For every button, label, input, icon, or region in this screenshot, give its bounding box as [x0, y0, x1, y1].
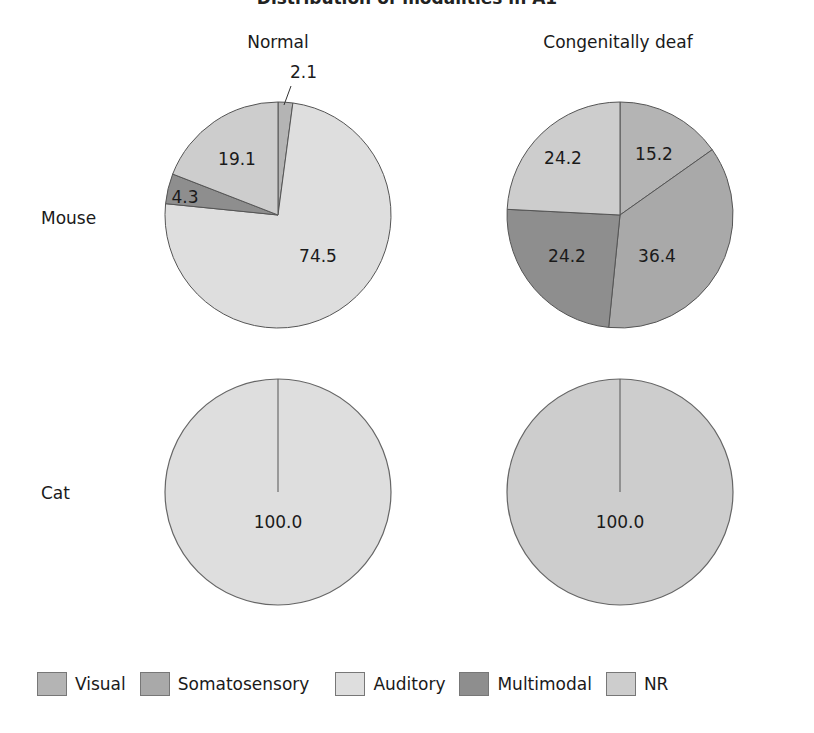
- pie-slice: [507, 209, 620, 327]
- slice-value-label: 4.3: [171, 187, 198, 207]
- legend-item-nr: NR: [606, 672, 669, 696]
- legend-item-auditory: Auditory: [335, 672, 445, 696]
- slice-value-label: 74.5: [299, 246, 337, 266]
- slice-value-label: 100.0: [596, 512, 645, 532]
- slice-value-label: 15.2: [635, 144, 673, 164]
- legend-label: Visual: [75, 674, 126, 694]
- pie-mouse-normal: 2.174.54.319.1: [165, 62, 391, 328]
- legend-swatch: [606, 672, 636, 696]
- legend-label: Multimodal: [497, 674, 591, 694]
- legend-swatch: [335, 672, 365, 696]
- slice-value-label: 2.1: [290, 62, 317, 82]
- slice-value-label: 24.2: [548, 246, 586, 266]
- legend-item-visual: Visual: [37, 672, 126, 696]
- pie-cat-deaf: 100.0: [507, 379, 733, 605]
- legend-swatch: [37, 672, 67, 696]
- pie-cat-normal: 100.0: [165, 379, 391, 605]
- legend-swatch: [140, 672, 170, 696]
- legend: Visual Somatosensory Auditory Multimodal…: [37, 672, 682, 696]
- legend-swatch: [459, 672, 489, 696]
- slice-value-label: 100.0: [254, 512, 303, 532]
- slice-value-label: 19.1: [218, 149, 256, 169]
- pie-charts: 2.174.54.319.1 15.236.424.224.2 100.0 10…: [0, 0, 814, 733]
- slice-value-label: 24.2: [544, 148, 582, 168]
- legend-label: Auditory: [373, 674, 445, 694]
- pie-mouse-deaf: 15.236.424.224.2: [507, 102, 733, 328]
- slice-value-label: 36.4: [638, 246, 676, 266]
- legend-label: NR: [644, 674, 669, 694]
- legend-label: Somatosensory: [178, 674, 310, 694]
- legend-item-somatosensory: Somatosensory: [140, 672, 310, 696]
- legend-item-multimodal: Multimodal: [459, 672, 591, 696]
